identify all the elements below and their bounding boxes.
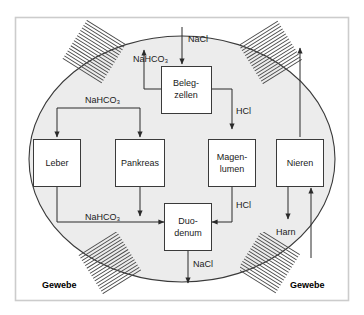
tissue-label-left: Gewebe bbox=[42, 280, 77, 290]
node-duodenum-label-line2: denum bbox=[174, 228, 202, 238]
edge-label-nahco3-mid-left: NaHCO₃ bbox=[85, 95, 121, 105]
node-leber[interactable]: Leber bbox=[34, 140, 81, 187]
node-magenlumen[interactable]: Magen- lumen bbox=[209, 140, 256, 187]
edge-label-nahco3-top-left: NaHCO₃ bbox=[133, 54, 169, 64]
node-belegzellen-label-line1: Beleg- bbox=[173, 78, 199, 88]
node-nieren-label: Nieren bbox=[287, 158, 314, 168]
edge-label-nahco3-bottom: NaHCO₃ bbox=[85, 212, 121, 222]
node-belegzellen[interactable]: Beleg- zellen bbox=[162, 67, 212, 114]
figure-container: Beleg- zellen Leber Pankreas Magen- lume… bbox=[0, 0, 364, 315]
node-leber-label: Leber bbox=[45, 158, 68, 168]
node-duodenum[interactable]: Duo- denum bbox=[165, 204, 212, 251]
edge-label-hcl-upper: HCl bbox=[236, 106, 251, 116]
physiology-flow-diagram: Beleg- zellen Leber Pankreas Magen- lume… bbox=[0, 0, 364, 315]
node-pankreas-label: Pankreas bbox=[121, 158, 160, 168]
node-belegzellen-label-line2: zellen bbox=[174, 90, 198, 100]
edge-label-hcl-lower: HCl bbox=[236, 200, 251, 210]
node-magenlumen-label-line1: Magen- bbox=[217, 152, 248, 162]
node-pankreas[interactable]: Pankreas bbox=[116, 140, 165, 187]
node-nieren[interactable]: Nieren bbox=[277, 140, 324, 187]
node-duodenum-label-line1: Duo- bbox=[178, 216, 198, 226]
node-magenlumen-label-line2: lumen bbox=[220, 164, 245, 174]
edge-label-harn: Harn bbox=[276, 227, 296, 237]
edge-label-nacl-bottom: NaCl bbox=[193, 259, 213, 269]
tissue-label-right: Gewebe bbox=[290, 280, 325, 290]
edge-label-nacl-top: NaCl bbox=[188, 34, 208, 44]
